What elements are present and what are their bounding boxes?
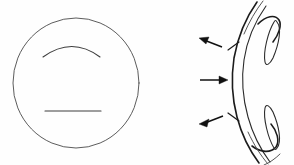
figure-root: Line drawing: at left a circle containin… [0, 0, 294, 165]
figure-canvas [0, 0, 294, 165]
figure-background [0, 0, 294, 165]
